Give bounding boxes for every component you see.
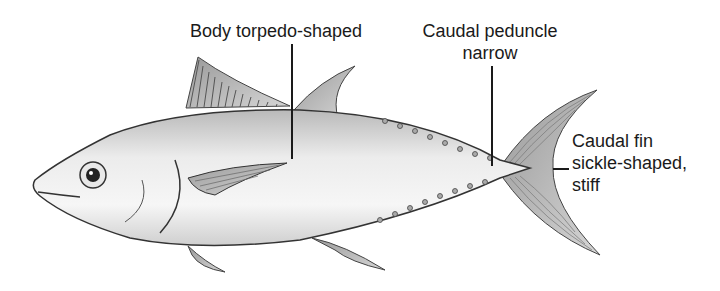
pelvic-fin (188, 246, 225, 272)
anal-fin (312, 238, 385, 270)
eye (80, 162, 106, 188)
caudal-fin-leader-line (553, 168, 569, 170)
body-leader-line (291, 44, 293, 159)
label-line: Caudal fin (572, 130, 687, 152)
label-line: Caudal peduncle (410, 20, 570, 42)
peduncle-leader-line (491, 66, 493, 166)
label-caudal-fin: Caudal fin sickle-shaped, stiff (572, 130, 687, 196)
label-line: sickle-shaped, (572, 152, 687, 174)
label-line: narrow (410, 42, 570, 64)
label-line: Body torpedo-shaped (190, 20, 362, 42)
fish-body (33, 110, 530, 246)
label-caudal-peduncle: Caudal peduncle narrow (410, 20, 570, 64)
tuna-diagram: Body torpedo-shaped Caudal peduncle narr… (0, 0, 720, 291)
label-body-torpedo-shaped: Body torpedo-shaped (190, 20, 362, 42)
label-line: stiff (572, 174, 687, 196)
first-dorsal-fin (186, 57, 290, 108)
